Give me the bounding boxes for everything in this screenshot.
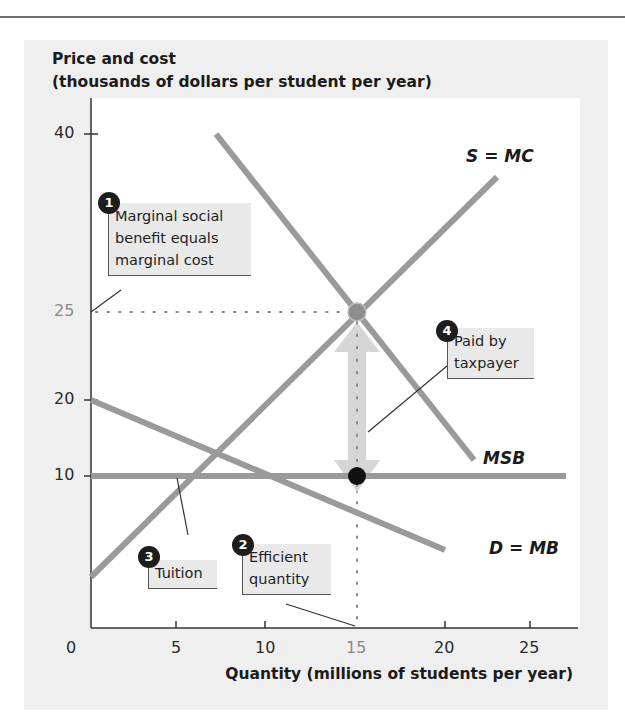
callout-2-line2: quantity — [249, 568, 325, 590]
callout-2-leader — [286, 604, 355, 626]
callout-3: Tuition — [148, 560, 217, 589]
callout-3-line1: Tuition — [155, 562, 211, 584]
badge-2-icon: 2 — [232, 534, 254, 556]
callout-2: Efficient quantity — [242, 544, 331, 595]
badge-4-icon: 4 — [436, 320, 458, 342]
x-axis-label: Quantity (millions of students per year) — [225, 665, 573, 683]
callout-1-line2: benefit equals — [115, 227, 245, 249]
x-tick-label-5: 5 — [171, 638, 181, 657]
x-tick-label-25: 25 — [519, 638, 539, 657]
callout-2-line1: Efficient — [249, 546, 325, 568]
callout-4-line1: Paid by — [454, 330, 528, 352]
x-tick-label-20: 20 — [434, 638, 454, 657]
callout-1: Marginal social benefit equals marginal … — [108, 203, 251, 276]
y-tick-label-10: 10 — [54, 465, 74, 484]
s-mc-label: S = MC — [466, 146, 534, 166]
badge-3-icon: 3 — [138, 546, 160, 568]
x-tick-label-15: 15 — [346, 638, 366, 657]
y-tick-label-20: 20 — [54, 389, 74, 408]
x-tick-label-0: 0 — [66, 638, 76, 657]
msb-curve — [216, 134, 474, 460]
tuition-point-marker — [348, 467, 366, 485]
y-tick-label-25: 25 — [54, 301, 74, 320]
badge-1-icon: 1 — [98, 192, 120, 214]
callout-1-line1: Marginal social — [115, 205, 245, 227]
y-tick-label-40: 40 — [54, 123, 74, 142]
efficient-point-marker — [348, 303, 366, 321]
callout-1-leader — [91, 290, 121, 312]
d-mb-label: D = MB — [489, 538, 559, 558]
msb-label: MSB — [483, 448, 525, 468]
x-tick-label-10: 10 — [255, 638, 275, 657]
callout-4-line2: taxpayer — [454, 352, 528, 374]
callout-1-line3: marginal cost — [115, 249, 245, 271]
callout-4: Paid by taxpayer — [447, 328, 534, 379]
